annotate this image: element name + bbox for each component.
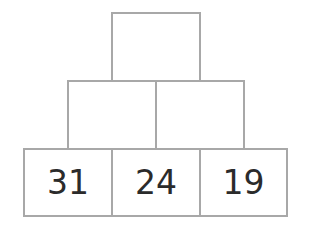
pyramid-bottom-cell-left: 31 [23,148,113,217]
pyramid-bottom-cell-right: 19 [199,148,288,217]
pyramid-middle-cell-right[interactable] [155,80,245,150]
pyramid-bottom-cell-middle: 24 [111,148,201,217]
pyramid-top-cell[interactable] [111,12,201,82]
pyramid-middle-cell-left[interactable] [67,80,157,150]
